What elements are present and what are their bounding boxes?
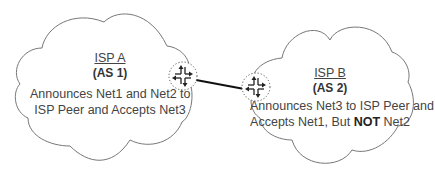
isp-b-title: ISP B bbox=[300, 66, 360, 80]
isp-a-title: ISP A bbox=[80, 51, 140, 65]
isp-b-as-number: (AS 2) bbox=[300, 81, 360, 95]
isp-b-desc-line2: Accepts Net1, But NOT Net2 bbox=[250, 114, 410, 130]
isp-a-description: Announces Net1 and Net2 to ISP Peer and … bbox=[30, 86, 190, 118]
isp-a-as-number: (AS 1) bbox=[80, 66, 140, 80]
isp-b-desc-line2-pre: Accepts Net1, But bbox=[250, 115, 354, 129]
router-icon-isp-b bbox=[242, 73, 270, 101]
isp-b-description: Announces Net3 to ISP Peer and Accepts N… bbox=[250, 98, 410, 130]
isp-b-cloud bbox=[251, 27, 413, 163]
isp-a-desc-line1: Announces Net1 and Net2 to bbox=[30, 86, 190, 102]
isp-b-desc-not: NOT bbox=[354, 115, 380, 129]
isp-b-desc-line1: Announces Net3 to ISP Peer and bbox=[250, 98, 410, 114]
isp-a-desc-line2: ISP Peer and Accepts Net3 bbox=[30, 102, 190, 118]
isp-b-desc-line2-post: Net2 bbox=[380, 115, 410, 129]
